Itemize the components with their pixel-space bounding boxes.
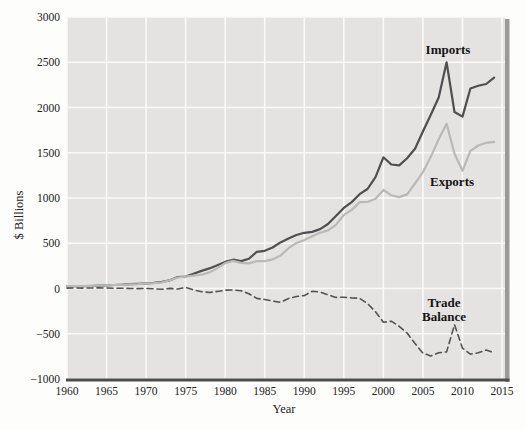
- y-tick-label: 2000: [37, 102, 60, 114]
- x-tick-label: 1995: [332, 385, 355, 397]
- y-axis-tick-labels: 300025002000150010005000−500−1000: [31, 11, 61, 385]
- x-axis-title: Year: [272, 402, 296, 416]
- y-tick-label: 3000: [37, 11, 60, 23]
- x-tick-label: 2005: [411, 385, 434, 397]
- x-axis-line: [66, 379, 510, 382]
- trade-balance-label-line1: Trade: [428, 295, 461, 310]
- us-trade-line-chart: 300025002000150010005000−500−1000 196019…: [0, 0, 525, 430]
- x-tick-label: 2000: [372, 385, 395, 397]
- y-axis-title: $ Billions: [12, 190, 26, 239]
- x-tick-label: 1970: [135, 385, 158, 397]
- x-tick-label: 1980: [214, 385, 237, 397]
- trade-balance-label-line2: Balance: [422, 309, 466, 324]
- y-tick-label: 2500: [37, 56, 60, 68]
- x-tick-label: 1990: [293, 385, 316, 397]
- x-tick-label: 1985: [253, 385, 276, 397]
- y-tick-label: 1500: [37, 147, 60, 159]
- x-axis-tick-labels: 1960196519701975198019851990199520002005…: [56, 385, 514, 397]
- chart-canvas: 300025002000150010005000−500−1000 196019…: [0, 0, 525, 430]
- x-tick-label: 1960: [56, 385, 79, 397]
- x-tick-label: 1975: [174, 385, 197, 397]
- x-tick-label: 1965: [95, 385, 118, 397]
- y-tick-label: 0: [54, 283, 60, 295]
- imports-series-label: Imports: [426, 42, 471, 57]
- y-tick-label: −500: [36, 328, 60, 340]
- plot-frame-right-shadow: [505, 19, 510, 382]
- x-tick-label: 2010: [451, 385, 474, 397]
- y-tick-label: 500: [43, 237, 61, 249]
- exports-series-label: Exports: [430, 174, 474, 189]
- x-tick-label: 2015: [491, 385, 514, 397]
- y-tick-label: −1000: [31, 373, 61, 385]
- y-tick-label: 1000: [37, 192, 60, 204]
